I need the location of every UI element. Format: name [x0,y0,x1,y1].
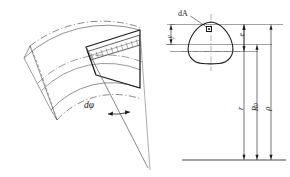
engineering-diagram [0,0,290,177]
outer-dashed-arc [30,21,142,46]
label-e: e [238,33,246,36]
cross-section-dimensions [166,14,286,160]
dphi-arrow-head-left [108,112,113,116]
curved-beam-segment [24,21,150,170]
dimension-r [242,25,245,161]
label-dphi: dφ [84,101,94,111]
label-R0-subscript: 0 [252,103,258,106]
label-dA: dA [178,10,188,18]
label-rho: ρ [263,106,272,110]
label-R0-symbol: R [249,106,259,111]
outer-solid-arc [24,25,140,58]
inner-solid-arc [51,83,140,110]
dA-leader-line [191,16,207,27]
radial-line-left [86,47,148,168]
label-R0: R0 [250,103,259,111]
dimension-rho [269,25,272,161]
label-r: r [236,107,245,110]
section-outline [188,22,233,64]
area-element-dA-core [208,28,210,30]
centroid-arc [42,63,141,90]
radial-line-right [140,30,150,170]
inner-dashed-arc [57,94,141,120]
segment-inner-arc-upper [89,40,140,56]
label-y: y [165,35,173,38]
